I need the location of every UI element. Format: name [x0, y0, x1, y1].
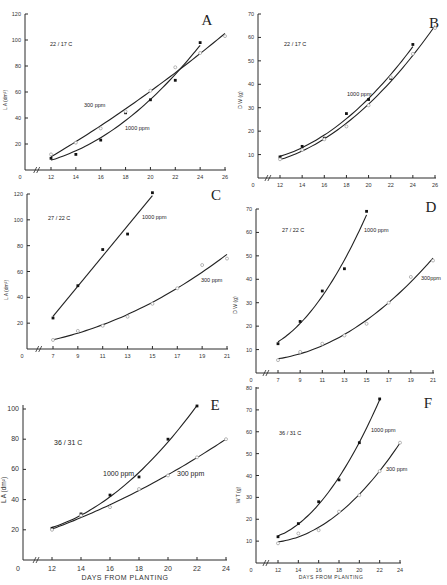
- y-tick-label: 80: [246, 385, 252, 391]
- data-point: [317, 500, 320, 503]
- data-point: [101, 324, 104, 327]
- y-axis-label: D W (g): [232, 296, 238, 314]
- data-point: [277, 359, 280, 362]
- x-tick-label: 11: [319, 377, 325, 383]
- data-point: [378, 470, 381, 473]
- x-tick-label: 18: [343, 182, 349, 188]
- y-tick-label: 70: [246, 407, 252, 413]
- temperature-annotation: 22 / 17 C: [284, 41, 306, 47]
- series-line: [52, 405, 197, 527]
- x-tick-label: 14: [299, 182, 305, 188]
- data-point: [138, 488, 141, 491]
- series-label: 1000 ppm: [364, 227, 389, 233]
- x-origin-label: 0: [249, 377, 252, 383]
- data-point: [343, 334, 346, 337]
- data-point: [109, 494, 112, 497]
- data-point: [51, 528, 54, 531]
- data-point: [434, 27, 437, 30]
- y-axis-label: L A (dm²): [3, 280, 9, 300]
- series-label: 1000 ppm: [142, 214, 167, 220]
- data-point: [174, 79, 177, 82]
- x-tick-label: 24: [197, 174, 203, 180]
- y-tick-label: 10: [246, 538, 252, 544]
- x-tick-label: 18: [123, 174, 129, 180]
- x-tick-label: 14: [73, 174, 79, 180]
- panel-e: 01214161820222420406080100L A (dm²)DAYS …: [0, 397, 230, 581]
- x-tick-label: 14: [295, 567, 301, 573]
- data-point: [224, 35, 227, 38]
- y-tick-label: 50: [246, 451, 252, 457]
- y-tick-label: 60: [246, 429, 252, 435]
- x-tick-label: 9: [299, 377, 302, 383]
- temperature-annotation: 27 / 22 C: [48, 215, 70, 221]
- data-point: [74, 141, 77, 144]
- temperature-annotation: 36 / 31 C: [279, 430, 301, 436]
- y-tick-label: 20: [17, 320, 23, 326]
- data-point: [151, 191, 154, 194]
- data-point: [358, 494, 361, 497]
- temperature-annotation: 22 / 17 C: [50, 41, 72, 47]
- y-tick-label: 70: [248, 11, 254, 17]
- y-tick-label: 40: [11, 496, 19, 503]
- x-tick-label: 22: [388, 182, 394, 188]
- series-1000-ppm: 1000 ppm: [51, 405, 199, 530]
- data-point: [126, 233, 129, 236]
- y-tick-label: 50: [246, 253, 252, 259]
- data-point: [225, 438, 228, 441]
- data-point: [151, 302, 154, 305]
- x-tick-label: 15: [364, 377, 370, 383]
- x-tick-label: 24: [397, 567, 403, 573]
- panel-a: 0121416182022242620406080100120L A (dm²)…: [2, 11, 228, 180]
- data-point: [226, 257, 229, 260]
- panel-letter: F: [424, 395, 432, 411]
- x-tick-label: 26: [432, 182, 438, 188]
- x-origin-label: 0: [18, 174, 21, 180]
- x-tick-label: 9: [76, 353, 79, 359]
- x-tick-label: 17: [386, 377, 392, 383]
- data-point: [76, 284, 79, 287]
- series-label: 300ppm: [421, 275, 441, 281]
- y-tick-label: 100: [12, 37, 21, 43]
- data-point: [297, 522, 300, 525]
- data-point: [277, 535, 280, 538]
- y-axis-label: W T (g): [235, 486, 241, 503]
- x-tick-label: 20: [356, 567, 362, 573]
- y-tick-label: 20: [246, 516, 252, 522]
- data-point: [50, 157, 53, 160]
- data-point: [323, 138, 326, 141]
- x-tick-label: 22: [172, 174, 178, 180]
- data-point: [358, 441, 361, 444]
- data-point: [411, 43, 414, 46]
- x-origin-label: 0: [16, 565, 20, 572]
- series-300ppm: 300ppm: [277, 258, 442, 361]
- y-tick-label: 60: [15, 89, 21, 95]
- data-point: [299, 320, 302, 323]
- y-axis-label: D W (g): [237, 91, 243, 109]
- data-point: [109, 506, 112, 509]
- panel-letter: A: [202, 12, 213, 28]
- x-tick-label: 12: [48, 565, 56, 572]
- y-tick-label: 60: [17, 269, 23, 275]
- series-line: [278, 443, 400, 542]
- y-tick-label: 40: [246, 276, 252, 282]
- data-point: [345, 112, 348, 115]
- y-tick-label: 20: [15, 141, 21, 147]
- data-point: [389, 76, 392, 79]
- panel-c: 07911131517192120406080100120L A (dm²)C2…: [3, 187, 230, 359]
- data-point: [301, 145, 304, 148]
- data-point: [343, 267, 346, 270]
- y-axis-label: L A (dm²): [0, 477, 8, 503]
- data-point: [432, 259, 435, 262]
- data-point: [167, 474, 170, 477]
- panel-d: 07911131517192110203040506070D W (g)D27 …: [232, 199, 441, 383]
- x-tick-label: 24: [410, 182, 416, 188]
- y-tick-label: 40: [248, 81, 254, 87]
- data-point: [52, 317, 55, 320]
- data-point: [196, 405, 199, 408]
- data-point: [411, 52, 414, 55]
- data-point: [299, 350, 302, 353]
- y-tick-label: 40: [17, 294, 23, 300]
- figure-panels: 0121416182022242620406080100120L A (dm²)…: [0, 0, 447, 585]
- temperature-annotation: 36 / 31 C: [54, 439, 82, 446]
- series-line: [278, 215, 367, 342]
